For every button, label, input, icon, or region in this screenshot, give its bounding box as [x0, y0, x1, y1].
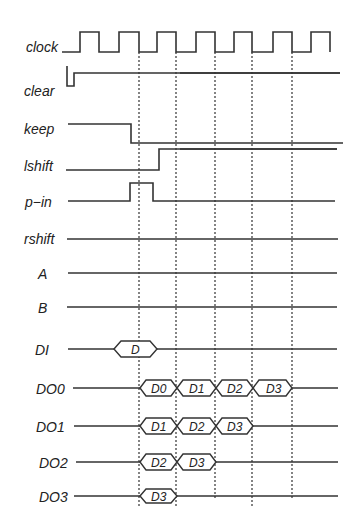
label-DO0: DO0 — [36, 381, 65, 397]
waveforms — [62, 32, 343, 307]
waveform-p-in — [68, 183, 335, 201]
bus-DO1: D1 D2 D3 — [74, 418, 338, 434]
label-lshift: lshift — [24, 158, 54, 174]
waveform-clear — [67, 66, 340, 86]
bus-value: D3 — [189, 456, 205, 470]
waveform-clock — [62, 32, 330, 52]
label-DO1: DO1 — [36, 419, 65, 435]
bus-DI: D — [68, 341, 337, 357]
bus-value: D3 — [151, 490, 167, 504]
label-clock: clock — [26, 39, 59, 55]
bus-DO0: D0 D1 D2 D3 — [73, 380, 338, 396]
bus-value: D2 — [189, 420, 205, 434]
bus-value: D1 — [189, 382, 204, 396]
waveform-keep — [68, 124, 343, 143]
bus-value: D3 — [266, 382, 282, 396]
clock-edge-guides — [139, 52, 292, 508]
label-p-in: p−in — [24, 194, 52, 210]
bus-value: D2 — [151, 456, 167, 470]
label-DO3: DO3 — [39, 489, 68, 505]
label-A: A — [37, 266, 47, 282]
label-B: B — [38, 300, 47, 316]
bus-value: D0 — [151, 382, 167, 396]
timing-diagram: clock clear keep lshift p−in rshift A B … — [0, 0, 364, 530]
bus-value: D1 — [151, 420, 166, 434]
label-keep: keep — [24, 121, 55, 137]
bus-value: D — [131, 343, 140, 357]
bus-value: D3 — [227, 420, 243, 434]
label-rshift: rshift — [24, 231, 55, 247]
signal-labels: clock clear keep lshift p−in rshift A B … — [24, 39, 68, 505]
bus-DO3: D3 — [74, 489, 338, 504]
label-clear: clear — [24, 83, 56, 99]
label-DO2: DO2 — [39, 455, 68, 471]
bus-DO2: D2 D3 — [76, 454, 338, 470]
label-DI: DI — [35, 342, 49, 358]
bus-value: D2 — [227, 382, 243, 396]
waveform-lshift — [66, 149, 337, 170]
